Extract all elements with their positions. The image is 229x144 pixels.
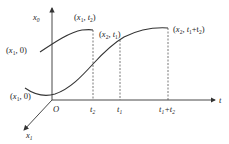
upper-curve [40, 30, 93, 52]
origin-label: O [53, 104, 59, 114]
vertical-axis-label: x0 [32, 12, 40, 23]
point-label-mid: (x2, t1) [99, 29, 121, 40]
tick-label-t2: t2 [90, 104, 95, 115]
point-label-top-peak: (x1, t2) [74, 12, 96, 23]
tick-label-t1: t1 [117, 104, 122, 115]
point-label-left-lower: (x1, 0) [10, 91, 31, 102]
tick-label-t1-plus-t2: t1+t2 [159, 104, 175, 115]
diagonal-axis [24, 100, 52, 130]
time-axis-label: t [219, 95, 222, 105]
lower-curve [25, 28, 168, 96]
wave-diagram: x0 t x1 O t2 t1 t1+t2 (x1, 0) (x1, 0) (x… [0, 0, 229, 144]
diagonal-axis-label: x1 [25, 130, 33, 141]
point-label-right: (x2, t1+t2) [173, 24, 205, 35]
point-label-left-upper: (x1, 0) [6, 45, 27, 56]
